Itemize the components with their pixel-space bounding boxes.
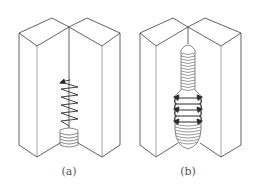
panel-a-root-bead <box>60 128 78 147</box>
diagram-canvas <box>0 0 255 189</box>
weld-diagram: (a) (b) <box>0 0 255 189</box>
panel-a-label: (a) <box>61 165 76 178</box>
panel-b-label: (b) <box>180 165 196 178</box>
